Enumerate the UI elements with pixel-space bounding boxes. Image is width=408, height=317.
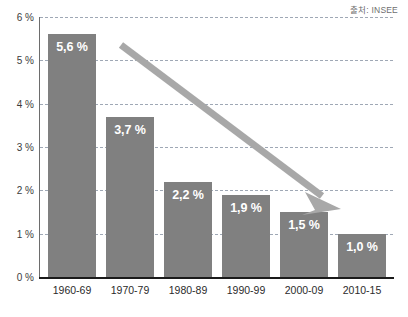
bar-1960-69[interactable]: 5,6 % [48,34,96,277]
y-tick-label-6: 6 % [17,13,34,23]
x-tick-label-1970-79: 1970-79 [101,284,159,296]
y-axis-labels: 6 % 5 % 4 % 3 % 2 % 1 % 0 % [0,0,34,317]
x-axis-labels: 1960-69 1970-79 1980-89 1990-99 2000-09 … [40,284,393,308]
x-tick-label-2000-09: 2000-09 [275,284,333,296]
bar-1970-79[interactable]: 3,7 % [106,117,154,277]
bar-value-label: 1,9 % [222,201,270,215]
y-tick-label-2: 2 % [17,186,34,196]
bar-2000-09[interactable]: 1,5 % [280,212,328,277]
x-tick-label-1990-99: 1990-99 [217,284,275,296]
y-tick-label-1: 1 % [17,230,34,240]
x-tick-label-2010-15: 2010-15 [333,284,391,296]
bar-value-label: 2,2 % [164,188,212,202]
bar-value-label: 1,0 % [338,240,386,254]
x-tick-label-1980-89: 1980-89 [159,284,217,296]
x-tick-label-1960-69: 1960-69 [43,284,101,296]
x-axis-line [39,277,394,279]
source-note: 출처: INSEE [350,3,398,15]
bar-2010-15[interactable]: 1,0 % [338,234,386,277]
y-tick-label-0: 0 % [17,273,34,283]
bar-value-label: 5,6 % [48,40,96,54]
bar-1980-89[interactable]: 2,2 % [164,182,212,277]
y-tick-label-5: 5 % [17,56,34,66]
y-tick-label-4: 4 % [17,100,34,110]
bar-chart: 출처: INSEE 6 % 5 % 4 % 3 % 2 % 1 % 0 % 5,… [0,0,408,317]
bar-1990-99[interactable]: 1,9 % [222,195,270,277]
bar-value-label: 3,7 % [106,123,154,137]
y-tick-label-3: 3 % [17,143,34,153]
bars-layer: 5,6 % 3,7 % 2,2 % 1,9 % 1,5 % 1,0 % [40,17,393,277]
bar-value-label: 1,5 % [280,218,328,232]
